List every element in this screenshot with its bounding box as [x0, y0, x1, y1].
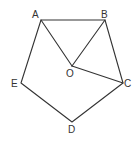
- segment-ao: [41, 20, 72, 66]
- label-a: A: [32, 10, 39, 20]
- segment-bo: [72, 20, 105, 66]
- geometry-diagram: A B O C E D: [0, 0, 137, 143]
- label-e: E: [11, 79, 18, 89]
- label-b: B: [101, 10, 108, 20]
- segment-oc: [72, 66, 123, 83]
- label-c: C: [124, 79, 131, 89]
- label-d: D: [68, 125, 75, 135]
- label-o: O: [66, 69, 74, 79]
